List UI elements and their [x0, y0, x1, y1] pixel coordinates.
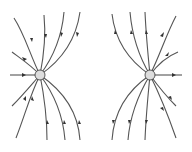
field-line-diagram: Electric field lines of two point charge… — [0, 0, 192, 152]
left-charge-icon — [35, 70, 45, 80]
field-lines-svg — [0, 0, 192, 152]
right-charge-icon — [145, 70, 155, 80]
